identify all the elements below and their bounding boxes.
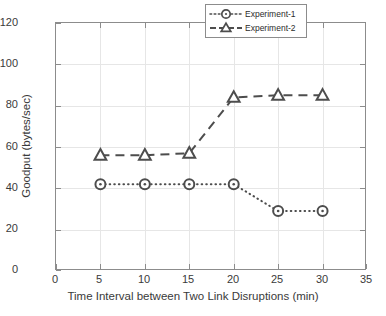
series-experiment-1 xyxy=(95,179,327,216)
data-point-marker[interactable] xyxy=(272,89,284,100)
plot-area xyxy=(55,22,366,270)
data-point-marker[interactable] xyxy=(228,91,240,102)
x-tick-label-5: 5 xyxy=(79,274,119,285)
data-point-center xyxy=(99,183,102,186)
y-tick-label-60: 60 xyxy=(0,141,18,152)
legend-label-experiment-2: Experiment-2 xyxy=(243,24,296,33)
x-tick-label-30: 30 xyxy=(302,274,342,285)
x-tick-label-20: 20 xyxy=(213,274,253,285)
legend-marker-circle-dotted xyxy=(209,7,243,21)
x-tick-label-15: 15 xyxy=(168,274,208,285)
data-point-center xyxy=(144,183,147,186)
x-tick-label-25: 25 xyxy=(257,274,297,285)
series-line xyxy=(100,184,322,211)
legend-label-experiment-1: Experiment-1 xyxy=(243,10,296,19)
x-tick-label-10: 10 xyxy=(124,274,164,285)
y-tick-label-20: 20 xyxy=(0,223,18,234)
y-tick-label-100: 100 xyxy=(0,58,18,69)
data-point-center xyxy=(321,210,324,213)
legend-marker-triangle-dashed xyxy=(209,21,243,35)
x-tick-label-35: 35 xyxy=(346,274,386,285)
series-line xyxy=(100,95,322,155)
data-point-center xyxy=(277,210,280,213)
y-tick-label-80: 80 xyxy=(0,99,18,110)
x-tick-label-0: 0 xyxy=(35,274,75,285)
series-layer xyxy=(56,23,367,271)
series-experiment-2 xyxy=(95,89,329,160)
x-axis-title: Time Interval between Two Link Disruptio… xyxy=(0,290,386,302)
y-tick-label-0: 0 xyxy=(0,264,18,275)
data-point-center xyxy=(232,183,235,186)
legend-item-experiment-2[interactable]: Experiment-2 xyxy=(209,21,303,35)
legend: Experiment-1 Experiment-2 xyxy=(205,4,307,38)
y-tick-label-40: 40 xyxy=(0,182,18,193)
y-axis-title: Goodput (bytes/sec) xyxy=(20,36,32,256)
legend-item-experiment-1[interactable]: Experiment-1 xyxy=(209,7,303,21)
chart-container: Goodput (bytes/sec) Time Interval betwee… xyxy=(0,0,386,316)
y-tick-label-120: 120 xyxy=(0,17,18,28)
data-point-center xyxy=(188,183,191,186)
